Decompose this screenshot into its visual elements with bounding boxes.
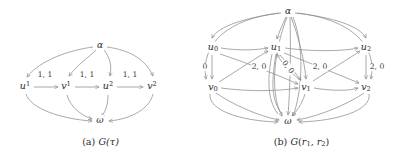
panel-graph-g-r1-r2: α u0 u1 u2 v0 v1 v2 ω 0 2, 0 0, 0 2, 0 2… (201, 0, 402, 159)
edge-label-v1-u1: 0, 0 (280, 59, 296, 76)
caption-panel-a: (a) G(τ) (0, 136, 201, 147)
node-u2: u2 (360, 42, 372, 53)
node-alpha: α (284, 6, 292, 16)
edge-label-u1-v1: 2, 0 (312, 63, 328, 71)
caption-panel-b: (b) G(r1, r2) (201, 136, 402, 148)
node-omega: ω (283, 116, 292, 126)
panel-b-edges (0, 0, 201, 135)
node-v2: v2 (360, 82, 372, 93)
edge-label-u2-v2: 2, 0 (369, 63, 385, 71)
node-v0: v0 (207, 82, 219, 93)
edge-label-u0-v0: 0 (202, 63, 208, 71)
edge-label-u0-v1: 2, 0 (251, 63, 267, 71)
figure-root: α u1 v1 u2 v2 ω 1, 1 1, 1 1, 1 (a) G(τ) (0, 0, 402, 159)
node-u1: u1 (270, 42, 282, 53)
node-v1: v1 (300, 82, 312, 93)
node-u0: u0 (207, 42, 219, 53)
